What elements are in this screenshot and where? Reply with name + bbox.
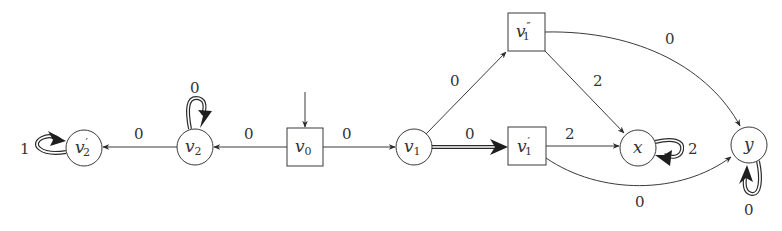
edge-v1pp-y [545,32,740,126]
loop-x [655,140,682,166]
label-v1pp-x: 2 [593,72,603,90]
node-x: x [620,130,656,166]
edge-labels: 1 0 0 0 0 0 0 2 0 2 2 0 0 [20,30,754,219]
edges [37,32,760,194]
label-v1-v1pp: 0 [450,72,460,90]
node-y: y [731,127,767,163]
svg-text:y: y [743,134,754,154]
label-v1-v1p: 0 [465,125,475,143]
node-v1-prime: v′1 [508,127,546,165]
edge-v1pp-x [545,51,624,133]
label-v0-v2: 0 [244,125,254,143]
svg-text:x: x [633,137,643,157]
label-x-loop: 2 [688,140,698,158]
label-v0-v1: 0 [342,125,352,143]
node-v0: v0 [287,128,323,166]
loop-v2p [37,131,66,153]
svg-text:v″1: v″1 [516,20,531,43]
label-v1pp-y: 0 [665,30,675,48]
nodes: v′2 v2 v0 v1 v″1 v′1 x y [66,13,767,166]
node-v2-prime: v′2 [66,130,102,166]
loop-y [739,161,760,194]
loop-v2 [188,98,212,129]
label-v2-loop: 0 [190,79,200,97]
svg-text:v′1: v′1 [517,135,532,158]
svg-text:v′2: v′2 [75,136,90,159]
label-v2p-loop: 1 [20,140,30,158]
label-y-loop: 0 [744,201,754,219]
label-v1p-y: 0 [635,193,645,211]
node-v2: v2 [177,129,213,165]
edge-v1-v1pp [426,52,506,134]
node-v1: v1 [396,129,432,165]
label-v1p-x: 2 [565,125,575,143]
label-v2-v2p: 0 [134,125,144,143]
game-graph-diagram: v′2 v2 v0 v1 v″1 v′1 x y [0,0,782,231]
node-v1-double-prime: v″1 [508,13,545,51]
